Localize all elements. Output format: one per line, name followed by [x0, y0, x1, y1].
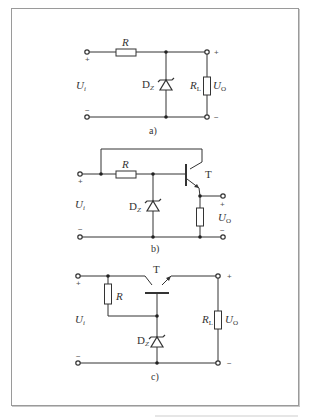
input-terminal-minus	[76, 361, 80, 365]
output-terminal-plus	[205, 50, 209, 54]
label-out-minus: −	[227, 359, 232, 368]
resistor-r	[116, 49, 136, 56]
resistor-r	[105, 284, 112, 304]
caption-c: c)	[151, 371, 159, 383]
circuit-b: R T + − + − Ui DZ UO b)	[75, 149, 231, 255]
load-resistor	[204, 77, 211, 95]
label-uo: UO	[213, 79, 226, 93]
label-r: R	[121, 36, 129, 48]
label-uo: UO	[218, 211, 231, 225]
output-terminal-plus	[216, 274, 220, 278]
output-terminal-minus	[205, 115, 209, 119]
caption-b: b)	[151, 243, 159, 255]
circuit-a: R + − + − Ui DZ RL UO a)	[76, 36, 226, 137]
label-r: R	[115, 290, 123, 302]
output-terminal-minus	[216, 361, 220, 365]
label-in-plus: +	[76, 279, 81, 288]
label-ui: Ui	[76, 79, 86, 93]
zener-diode	[145, 199, 161, 211]
transistor-t	[145, 276, 171, 363]
label-t: T	[153, 263, 160, 275]
label-in-plus: +	[78, 177, 83, 186]
label-rl: RL	[189, 79, 201, 93]
resistor-r	[116, 171, 136, 178]
label-t: T	[205, 168, 212, 180]
label-rl: RL	[201, 313, 213, 327]
zener-diode	[149, 335, 165, 347]
input-terminal-plus	[78, 172, 82, 176]
circuit-figure: R + − + − Ui DZ RL UO a)	[0, 0, 311, 418]
label-in-minus: −	[76, 352, 81, 361]
label-r: R	[121, 158, 129, 170]
label-out-minus: −	[214, 113, 219, 122]
transistor-t	[186, 164, 200, 196]
zener-diode	[158, 78, 174, 90]
input-terminal-plus	[85, 50, 89, 54]
label-out-plus: +	[227, 272, 232, 281]
label-out-minus: −	[220, 226, 225, 235]
label-uo: UO	[225, 313, 238, 327]
label-dz: DZ	[137, 334, 149, 348]
circuit-c: R T + − + − Ui DZ RL UO c)	[75, 263, 238, 383]
input-terminal-plus	[76, 274, 80, 278]
label-in-plus: +	[85, 55, 90, 64]
label-dz: DZ	[142, 78, 154, 92]
label-ui: Ui	[75, 198, 85, 212]
input-terminal-minus	[78, 235, 82, 239]
output-terminal-minus	[221, 235, 225, 239]
label-out-plus: +	[220, 200, 225, 209]
caption-a: a)	[149, 125, 157, 137]
output-terminal-plus	[221, 194, 225, 198]
load-resistor	[215, 311, 222, 329]
load-resistor	[197, 208, 204, 226]
input-terminal-minus	[85, 115, 89, 119]
label-ui: Ui	[75, 313, 85, 327]
label-in-minus: −	[78, 225, 83, 234]
label-out-plus: +	[214, 48, 219, 57]
label-in-minus: −	[85, 106, 90, 115]
label-dz: DZ	[129, 200, 141, 214]
